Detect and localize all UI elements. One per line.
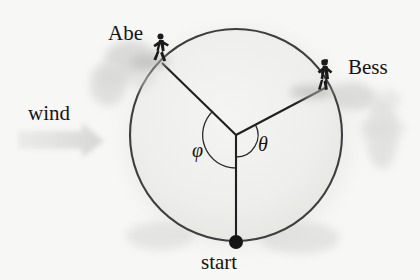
circle-track-diagram	[0, 0, 420, 280]
label-start: start	[201, 252, 237, 273]
label-angle-phi: φ	[192, 140, 203, 160]
label-angle-theta: θ	[258, 134, 268, 154]
label-wind: wind	[28, 103, 70, 124]
diagram-canvas: Abe Bess wind start φ θ	[0, 0, 420, 280]
label-abe: Abe	[108, 23, 143, 44]
paper-grain-overlay	[0, 0, 420, 280]
label-bess: Bess	[348, 57, 388, 78]
